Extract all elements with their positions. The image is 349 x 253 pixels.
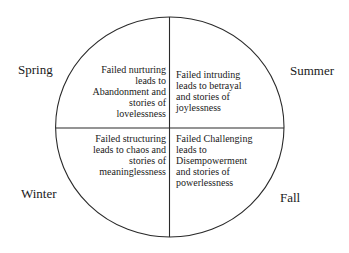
quadrant-text-line: stories of bbox=[92, 98, 166, 109]
season-label-summer: Summer bbox=[290, 64, 334, 78]
season-label-winter: Winter bbox=[21, 187, 57, 201]
quadrant-summer-text: Failed intruding leads to betrayal and s… bbox=[176, 70, 242, 114]
season-label-fall: Fall bbox=[280, 191, 300, 205]
quadrant-text-line: joylessness bbox=[176, 103, 242, 114]
quadrant-text-line: powerlessness bbox=[176, 178, 252, 189]
quadrant-text-line: lovelessness bbox=[92, 109, 166, 120]
quadrant-fall-text: Failed Challenging leads to Disempowerme… bbox=[176, 134, 252, 189]
quadrant-spring-text: Failed nurturing leads to Abandonment an… bbox=[92, 65, 166, 120]
quadrant-text-line: meaninglessness bbox=[93, 167, 166, 178]
quadrant-text-line: and stories of bbox=[176, 167, 252, 178]
quadrant-circle bbox=[0, 0, 349, 253]
quadrant-winter-text: Failed structuring leads to chaos and st… bbox=[93, 134, 166, 178]
season-label-spring: Spring bbox=[18, 63, 53, 77]
